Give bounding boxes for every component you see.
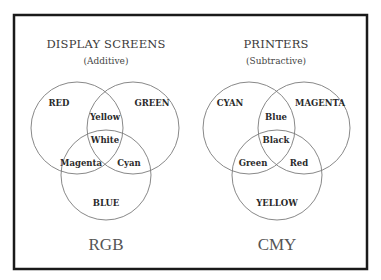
subtractive-title: PRINTERS [243,37,308,51]
cyan-label: CYAN [217,98,244,108]
rgb-model-label: RGB [89,235,124,254]
yellow-overlap-label: Yellow [89,112,121,122]
white-center-label: White [90,135,120,145]
magenta-label: MAGENTA [295,98,345,108]
subtractive-subtitle: (Subtractive) [246,56,306,66]
magenta-overlap-label: Magenta [60,158,102,168]
color-models-diagram: DISPLAY SCREENS (Additive) RED GREEN BLU… [0,0,381,280]
yellow-label: YELLOW [255,198,298,208]
additive-title: DISPLAY SCREENS [46,37,165,51]
green-overlap-label: Green [239,158,268,168]
additive-subtitle: (Additive) [84,56,129,66]
blue-overlap-label: Blue [265,112,288,122]
cyan-overlap-label: Cyan [117,158,140,168]
green-label: GREEN [134,98,169,108]
red-label: RED [49,98,71,108]
red-overlap-label: Red [290,158,308,168]
cmy-model-label: CMY [258,235,297,254]
blue-label: BLUE [93,198,120,208]
diagram-frame [14,15,367,269]
black-center-label: Black [263,135,291,145]
